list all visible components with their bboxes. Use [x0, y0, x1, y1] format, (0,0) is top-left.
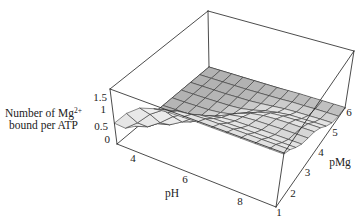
x-tick-label: 6 [182, 173, 188, 185]
z-tick-label: 1 [101, 103, 107, 115]
y-tick-label: 1 [276, 206, 282, 218]
y-tick-label: 2 [290, 187, 296, 199]
z-axis-title-superscript: 2+ [74, 106, 82, 115]
z-tick-label: 0 [105, 133, 111, 145]
z-axis-title: Number of Mg2+ bound per ATP [5, 106, 82, 133]
z-axis-title-line2: bound per ATP [9, 119, 78, 132]
y-tick-label: 4 [318, 146, 324, 158]
y-axis-title: pMg [329, 156, 351, 169]
z-tick-label: 1.5 [93, 91, 107, 103]
z-axis-title-line1: Number of Mg2+ [5, 106, 82, 121]
y-tick-label: 3 [305, 166, 311, 178]
x-tick-label: 8 [237, 195, 243, 207]
z-tick-label: 0.5 [94, 120, 108, 132]
x-tick-label: 4 [130, 152, 136, 164]
x-axis-title: pH [165, 187, 179, 200]
y-tick-label: 6 [346, 106, 352, 118]
surface-plot: Number of Mg2+ bound per ATP 0 0.5 1 1.5… [0, 0, 361, 223]
y-tick-label: 5 [332, 126, 338, 138]
